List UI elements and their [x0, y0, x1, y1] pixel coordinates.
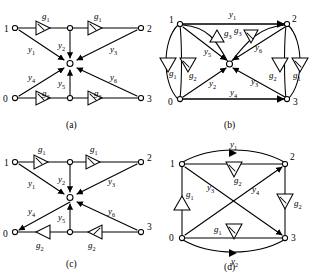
node-label-0: 0 [3, 94, 8, 104]
edge-label-y4: y4 [27, 206, 35, 218]
gain-label-g1-left: g1 [169, 68, 177, 80]
panel-caption-b: (b) [224, 120, 235, 131]
gain-triangle-g1-top-left [34, 155, 48, 169]
edge-y6 [77, 68, 137, 96]
gain-triangle-g2-right [272, 58, 288, 72]
arc-g2-left [180, 25, 182, 99]
node-mid-bottom [67, 95, 72, 100]
edge-y3 [77, 30, 137, 60]
gain-triangle-g1-top-right [88, 21, 102, 35]
node-0 [12, 95, 17, 100]
node-0 [179, 235, 184, 240]
edge-label-y5: y5 [57, 78, 65, 90]
node-2 [282, 161, 287, 166]
panel-a: 1 2 0 3 y1 y2 y3 y4 y5 y6 g1 g1 g2 g2 (a… [0, 0, 156, 136]
node-1 [179, 161, 184, 166]
node-mid-bottom [67, 229, 72, 234]
node-label-0: 0 [3, 229, 8, 239]
edge-label-y5: y5 [57, 212, 65, 224]
node-label-2: 2 [292, 14, 297, 24]
gain-label-g2-right: g2 [294, 198, 302, 210]
node-label-2: 2 [290, 152, 295, 162]
node-center [67, 61, 73, 67]
panel-caption-d: (d) [224, 262, 235, 272]
node-2 [284, 21, 289, 26]
node-label-2: 2 [147, 24, 152, 34]
edge-label-y3: y3 [109, 44, 117, 56]
gain-label-g1-top-right: g1 [90, 144, 98, 156]
gain-triangle-g2-bottom-left [36, 225, 50, 239]
node-label-3: 3 [291, 233, 296, 243]
panel-b: 1 2 0 3 y1 y5 y6 y2 y3 y4 g1 g2 g2 g1 g3… [156, 0, 312, 136]
gain-label-g3-right: g3 [234, 25, 242, 37]
node-label-1: 1 [170, 159, 175, 169]
edge-label-y6: y6 [109, 72, 117, 84]
node-2 [138, 159, 143, 164]
gain-label-g2-top: g2 [234, 175, 242, 187]
gain-triangle-g2-bottom-right [88, 225, 102, 239]
gain-label-g2-bottom-right: g2 [88, 240, 96, 252]
gain-triangle-g1-top-right [86, 155, 100, 169]
gain-label-g1-top-left: g1 [38, 144, 46, 156]
gain-label-g2-right: g2 [269, 70, 277, 82]
gain-triangle-g1-left [160, 58, 176, 72]
gain-label-g1-bottom: g1 [214, 224, 222, 236]
node-center [227, 61, 233, 67]
gain-label-g2-bottom-right: g2 [94, 88, 102, 100]
arc-y2 [183, 240, 284, 252]
gain-label-g2-bottom-left: g2 [42, 88, 50, 100]
node-1 [12, 159, 17, 164]
panel-caption-a: (a) [66, 120, 77, 131]
edge-label-y2: y2 [57, 40, 65, 52]
node-3 [284, 96, 289, 101]
node-label-3: 3 [147, 222, 152, 232]
node-2 [138, 25, 143, 30]
edge-label-y4: y4 [251, 184, 259, 196]
node-1 [12, 25, 17, 30]
edge-label-y2: y2 [57, 174, 65, 186]
edge-y3 [233, 68, 285, 97]
gain-label-g2-left: g2 [189, 70, 197, 82]
edge-label-y3: y3 [107, 176, 115, 188]
node-label-0: 0 [169, 233, 174, 243]
gain-label-g2-bottom-left: g2 [36, 240, 44, 252]
gain-label-g1-top-right: g1 [94, 11, 102, 23]
edge-label-y4: y4 [27, 72, 35, 84]
node-label-2: 2 [147, 153, 152, 163]
gain-label-g1-top-left: g1 [42, 11, 50, 23]
node-label-1: 1 [4, 158, 9, 168]
panel-d: 1 2 0 3 y1 y2 y3 y4 g1 g2 g2 g1 (d) [156, 136, 312, 272]
node-0 [12, 229, 17, 234]
edge-label-y1: y1 [27, 178, 35, 190]
gain-triangle-g3-left [210, 30, 224, 42]
node-label-0: 0 [168, 97, 173, 107]
gain-label-g1-left: g1 [186, 189, 194, 201]
node-center [67, 195, 73, 201]
edge-label-y1: y1 [27, 44, 35, 56]
edge-label-y1: y1 [228, 9, 236, 21]
node-mid-top [67, 25, 72, 30]
edge-label-y1: y1 [229, 139, 237, 151]
node-label-3: 3 [147, 94, 152, 104]
edge-label-y4: y4 [229, 87, 237, 99]
edge-label-y2: y2 [208, 78, 216, 90]
node-label-1: 1 [169, 15, 174, 25]
node-mid-top [67, 159, 72, 164]
edge-y6 [77, 202, 137, 230]
edge-label-y6: y6 [107, 206, 115, 218]
figure-signal-flow-graphs: 1 2 0 3 y1 y2 y3 y4 y5 y6 g1 g1 g2 g2 (a… [0, 0, 312, 273]
node-label-3: 3 [293, 97, 298, 107]
edge-label-y3: y3 [206, 182, 214, 194]
node-3 [138, 95, 143, 100]
node-0 [177, 96, 182, 101]
gain-label-g3-left: g3 [224, 28, 232, 40]
node-3 [138, 229, 143, 234]
panel-c: 1 2 0 3 y1 y2 y3 y4 y5 y6 g1 g1 g2 g2 (c… [0, 136, 156, 272]
panel-caption-c: (c) [66, 259, 77, 270]
node-1 [177, 21, 182, 26]
gain-triangle-g2-left [180, 58, 196, 72]
node-3 [282, 235, 287, 240]
node-label-1: 1 [4, 24, 9, 34]
edge-label-y6: y6 [254, 42, 262, 54]
edge-label-y3: y3 [250, 76, 258, 88]
